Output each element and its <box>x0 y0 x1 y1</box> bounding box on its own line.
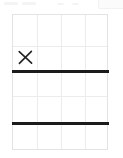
upper-thick-rule[interactable] <box>12 70 109 73</box>
ghost-panel <box>98 0 123 9</box>
lower-thick-rule[interactable] <box>12 122 109 125</box>
ghost-toolbar-item-1 <box>4 2 18 5</box>
grid-vertical-line <box>37 15 38 149</box>
ghost-toolbar-item-4 <box>72 3 79 5</box>
grid-horizontal-line <box>13 46 107 47</box>
x-mark-icon <box>17 49 34 66</box>
top-chrome-remnants <box>0 0 123 13</box>
grid-vertical-line <box>61 15 62 149</box>
grid-horizontal-line <box>13 96 107 97</box>
x-mark[interactable] <box>17 49 34 66</box>
ghost-toolbar-item-2 <box>22 2 36 5</box>
app-canvas <box>0 0 123 158</box>
ghost-toolbar-item-3 <box>57 3 64 5</box>
grid-sheet[interactable] <box>12 14 108 150</box>
grid-vertical-line <box>85 15 86 149</box>
